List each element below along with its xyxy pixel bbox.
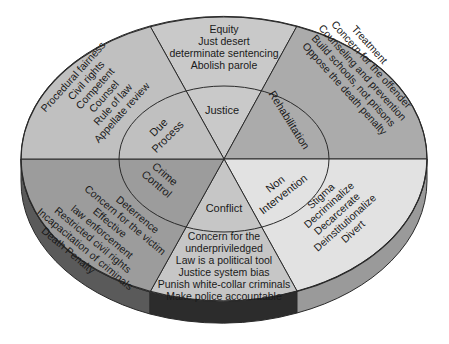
svg-text:Just desert: Just desert bbox=[198, 35, 249, 47]
label-conflict: Conflict bbox=[206, 202, 243, 214]
svg-text:Justice system bias: Justice system bias bbox=[178, 266, 269, 278]
svg-text:Equity: Equity bbox=[209, 23, 239, 35]
svg-text:Abolish parole: Abolish parole bbox=[191, 59, 258, 71]
label-justice: Justice bbox=[205, 104, 239, 116]
criminal-justice-perspectives-diagram: Justice Rehabilitation Non Intervention … bbox=[0, 0, 449, 344]
svg-text:Law is a political tool: Law is a political tool bbox=[176, 254, 272, 266]
svg-text:Make police accountable: Make police accountable bbox=[166, 290, 282, 302]
svg-text:determinate sentencing: determinate sentencing bbox=[169, 47, 278, 59]
svg-text:Concern for the: Concern for the bbox=[188, 230, 261, 242]
svg-text:Punish white-collar criminals: Punish white-collar criminals bbox=[158, 278, 290, 290]
svg-text:underpriviledged: underpriviledged bbox=[185, 242, 263, 254]
